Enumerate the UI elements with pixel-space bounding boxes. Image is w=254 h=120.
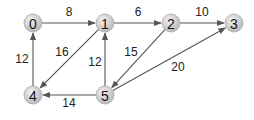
- node-label: 3: [230, 16, 238, 32]
- edge-weight-label: 12: [15, 52, 29, 66]
- node-5: 5: [96, 86, 114, 104]
- node-4: 4: [24, 86, 42, 104]
- edge-weight-label: 12: [88, 55, 102, 69]
- edge-weight-label: 10: [195, 5, 209, 19]
- directed-weighted-graph: 8610161212152014 012345: [0, 0, 254, 120]
- edge-weight-label: 15: [124, 45, 138, 59]
- node-0: 0: [24, 14, 42, 32]
- edge-weight-label: 20: [171, 60, 185, 74]
- edges-layer: [33, 23, 225, 95]
- node-1: 1: [96, 14, 114, 32]
- edge-5-to-3: [113, 28, 225, 91]
- node-3: 3: [225, 14, 243, 32]
- node-label: 1: [101, 16, 109, 32]
- edge-weight-label: 8: [66, 5, 73, 19]
- edge-weight-label: 16: [55, 45, 69, 59]
- node-label: 0: [29, 16, 37, 32]
- edge-weight-label: 6: [135, 5, 142, 19]
- node-label: 2: [167, 16, 175, 32]
- edge-weight-label: 14: [62, 96, 76, 110]
- nodes-layer: 012345: [24, 14, 243, 104]
- node-2: 2: [162, 14, 180, 32]
- edge-2-to-5: [112, 30, 165, 88]
- node-label: 4: [29, 88, 37, 104]
- node-label: 5: [101, 88, 109, 104]
